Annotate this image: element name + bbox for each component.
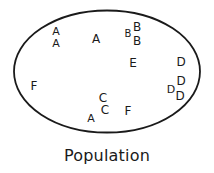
population-member-f: F xyxy=(125,105,132,117)
population-member-c: C xyxy=(101,104,109,116)
population-member-d: D xyxy=(176,56,185,68)
population-member-f: F xyxy=(31,80,38,92)
population-member-a: A xyxy=(52,26,60,37)
population-member-a: A xyxy=(92,33,100,45)
population-member-a: A xyxy=(87,113,95,124)
population-member-d: D xyxy=(176,75,185,87)
population-member-b: B xyxy=(133,35,141,47)
population-diagram: AAABBBEDDDDFCCAF Population xyxy=(0,0,214,173)
population-member-b: B xyxy=(125,29,132,39)
population-member-e: E xyxy=(129,57,137,69)
population-member-d: D xyxy=(167,84,175,95)
diagram-caption: Population xyxy=(64,146,150,165)
population-member-b: B xyxy=(133,21,141,33)
population-member-d: D xyxy=(175,90,184,102)
population-member-a: A xyxy=(52,38,60,49)
